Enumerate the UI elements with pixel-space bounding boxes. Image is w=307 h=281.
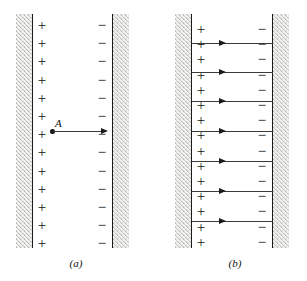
charge-sign-minus: − (255, 174, 269, 189)
field-vector-a-arrowhead (101, 128, 108, 134)
plate-stipple-texture (113, 14, 129, 248)
charge-sign-minus: − (95, 18, 109, 33)
charge-sign-plus: + (35, 73, 49, 88)
electric-field-line-arrowhead (219, 69, 226, 75)
charge-sign-minus: − (95, 200, 109, 215)
charge-sign-minus: − (95, 145, 109, 160)
charge-sign-plus: + (194, 174, 208, 189)
charge-sign-plus: + (35, 200, 49, 215)
charge-sign-minus: − (95, 73, 109, 88)
charge-sign-plus: + (35, 18, 49, 33)
electric-field-line (192, 72, 273, 73)
charge-sign-plus: + (35, 127, 49, 142)
charge-sign-plus: + (194, 235, 208, 250)
plate-stipple-texture (273, 14, 289, 248)
caption-panel-b: (b) (215, 258, 255, 269)
charge-sign-minus: − (95, 218, 109, 233)
charge-sign-plus: + (194, 22, 208, 37)
positive-plate-b (175, 14, 191, 248)
charge-sign-plus: + (35, 109, 49, 124)
charge-sign-plus: + (35, 36, 49, 51)
panel-b: +++++++++++++++ −−−−−−−−−−−−−−− (b) (155, 0, 307, 281)
charge-sign-minus: − (95, 164, 109, 179)
electric-field-line (192, 191, 273, 192)
plate-stipple-texture (175, 14, 191, 248)
electric-field-line (192, 161, 273, 162)
charge-sign-plus: + (194, 37, 208, 52)
charge-sign-minus: − (95, 91, 109, 106)
charge-sign-minus: − (255, 52, 269, 67)
negative-plate-a (113, 14, 129, 248)
charge-sign-minus: − (255, 83, 269, 98)
charge-sign-minus: − (255, 22, 269, 37)
electric-field-line-arrowhead (219, 158, 226, 164)
electric-field-line (192, 221, 273, 222)
panel-a: +++++++++++++ −−−−−−−−−−−−− A (a) (0, 0, 152, 281)
charge-sign-plus: + (35, 236, 49, 251)
charge-sign-minus: − (255, 235, 269, 250)
charge-sign-minus: − (95, 54, 109, 69)
positive-plate-a (16, 14, 32, 248)
charge-sign-plus: + (194, 83, 208, 98)
plate-stipple-texture (16, 14, 32, 248)
charge-sign-plus: + (194, 113, 208, 128)
charge-sign-minus: − (95, 109, 109, 124)
charge-sign-plus: + (35, 54, 49, 69)
capacitor-field-figure: +++++++++++++ −−−−−−−−−−−−− A (a) (0, 0, 307, 281)
negative-plate-b (273, 14, 289, 248)
caption-panel-a: (a) (56, 258, 96, 269)
electric-field-line (192, 101, 273, 102)
charge-sign-minus: − (255, 204, 269, 219)
charge-sign-minus: − (255, 144, 269, 159)
charge-sign-minus: − (95, 36, 109, 51)
electric-field-line-arrowhead (219, 218, 226, 224)
charge-sign-minus: − (255, 68, 269, 83)
charge-sign-minus: − (95, 236, 109, 251)
electric-field-line-arrowhead (219, 98, 226, 104)
electric-field-line-arrowhead (219, 40, 226, 46)
charge-sign-plus: + (194, 204, 208, 219)
electric-field-line (192, 43, 273, 44)
charge-sign-plus: + (35, 218, 49, 233)
electric-field-line (192, 131, 273, 132)
charge-sign-plus: + (35, 145, 49, 160)
charge-sign-plus: + (194, 68, 208, 83)
negative-plate-a-edge (112, 14, 113, 248)
positive-plate-a-edge (32, 14, 33, 248)
charge-sign-plus: + (194, 144, 208, 159)
field-vector-a (52, 131, 102, 132)
charge-sign-plus: + (35, 182, 49, 197)
charge-sign-minus: − (95, 182, 109, 197)
electric-field-line-arrowhead (219, 188, 226, 194)
charge-sign-plus: + (35, 91, 49, 106)
charge-sign-minus: − (255, 113, 269, 128)
charge-sign-plus: + (194, 52, 208, 67)
point-a-label: A (55, 118, 62, 129)
charge-sign-plus: + (35, 164, 49, 179)
electric-field-line-arrowhead (219, 128, 226, 134)
charge-sign-minus: − (255, 37, 269, 52)
